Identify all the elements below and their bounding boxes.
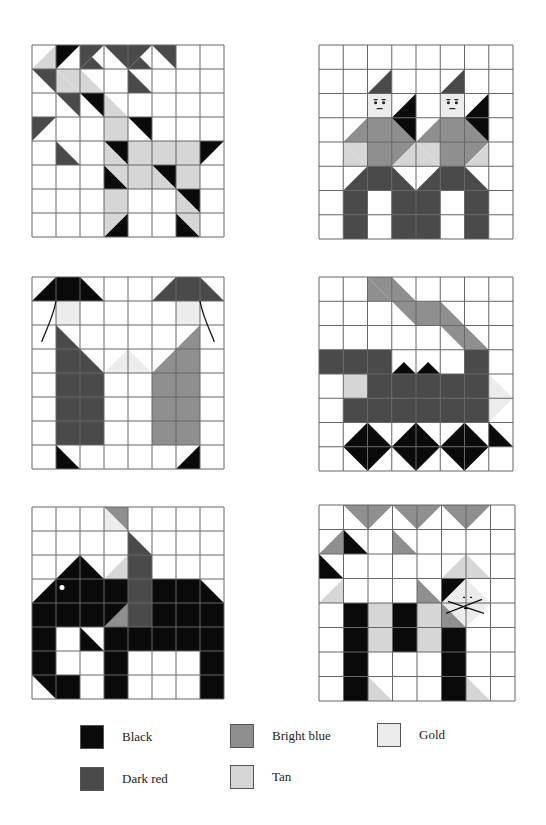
cell-dark-red <box>152 277 176 301</box>
cell-black <box>343 447 367 471</box>
cell-black <box>32 603 56 627</box>
color-swatch <box>377 723 401 747</box>
legend-item-bright-blue: Bright blue <box>230 724 331 748</box>
cell-gold <box>368 94 392 118</box>
cell-black <box>56 445 80 469</box>
cell-dark-red <box>56 373 80 397</box>
cell-dark-red <box>128 579 152 603</box>
cell-dark-red <box>416 398 440 422</box>
cell-gold <box>440 94 464 118</box>
cell-black <box>440 423 464 447</box>
cell-black <box>465 447 489 471</box>
legend-label: Tan <box>272 769 291 785</box>
legend-item-black: Black <box>80 725 152 749</box>
cell-bright-blue <box>466 505 491 530</box>
cell-black <box>56 45 80 69</box>
cell-black <box>368 423 392 447</box>
cell-black <box>344 530 369 555</box>
color-swatch <box>80 725 104 749</box>
pattern-panel-cat-and-bars <box>318 504 516 702</box>
cell-dark-red <box>416 374 440 398</box>
cell-black <box>200 675 224 699</box>
cell-tan <box>343 374 367 398</box>
cell-tan <box>152 141 176 165</box>
cell-black <box>80 579 104 603</box>
cell-bright-blue <box>416 301 440 325</box>
cell-dark-red <box>104 45 128 69</box>
cell-gold <box>56 301 80 325</box>
legend-item-dark-red: Dark red <box>80 767 168 791</box>
cell-black <box>176 627 200 651</box>
cell-bright-blue <box>440 301 464 325</box>
cell-black <box>442 652 467 677</box>
cell-tan <box>442 554 467 579</box>
cell-black <box>416 423 440 447</box>
cell-dark-red <box>416 166 440 190</box>
cell-dark-red <box>56 141 80 165</box>
cell-tan <box>104 555 128 579</box>
cell-dark-red <box>32 69 56 93</box>
cell-dark-red <box>465 166 489 190</box>
cell-dark-red <box>80 421 104 445</box>
cell-black <box>200 579 224 603</box>
cell-dark-red <box>128 555 152 579</box>
cell-black <box>344 677 369 702</box>
cell-dark-red <box>80 397 104 421</box>
cell-black <box>128 627 152 651</box>
cell-dark-red <box>368 69 392 93</box>
cell-tan <box>417 603 442 628</box>
pattern-grid <box>318 276 514 472</box>
hair-strand-line <box>42 301 56 342</box>
cell-black <box>104 627 128 651</box>
cell-bright-blue <box>417 579 442 604</box>
cell-dark-red <box>128 69 152 93</box>
cell-tan <box>104 93 128 117</box>
cell-bright-blue <box>417 505 442 530</box>
legend-label: Dark red <box>122 771 168 787</box>
cell-black <box>392 94 416 118</box>
color-swatch <box>80 767 104 791</box>
cell-dark-red <box>440 69 464 93</box>
cell-dark-red <box>368 166 392 190</box>
cell-dark-red <box>343 350 367 374</box>
cell-black <box>416 447 440 471</box>
cell-bright-blue <box>176 349 200 373</box>
legend-item-tan: Tan <box>230 765 291 789</box>
cell-black <box>80 627 104 651</box>
cell-bright-blue <box>152 397 176 421</box>
cell-black <box>344 652 369 677</box>
cell-tan <box>176 141 200 165</box>
cell-bright-blue <box>176 325 200 349</box>
cell-black <box>104 651 128 675</box>
cell-bright-blue <box>392 277 416 301</box>
cell-tan <box>176 165 200 189</box>
cell-black <box>465 423 489 447</box>
cell-bright-blue <box>152 349 176 373</box>
cell-black <box>392 362 416 374</box>
cell-black <box>392 447 416 471</box>
pattern-panel-abstract-diagonal <box>31 44 225 238</box>
cell-dark-red <box>465 191 489 215</box>
cell-bright-blue <box>368 505 393 530</box>
cell-dark-red <box>56 421 80 445</box>
cell-dark-red <box>465 374 489 398</box>
cell-dark-red <box>368 374 392 398</box>
grid-lines <box>32 507 224 699</box>
cell-black <box>489 423 513 447</box>
cell-dark-red <box>392 215 416 239</box>
cell-dark-red <box>152 45 176 69</box>
cell-tan <box>104 117 128 141</box>
pattern-grid <box>31 44 225 238</box>
cell-dark-red <box>343 166 367 190</box>
cell-dark-red <box>319 350 343 374</box>
cell-dark-red <box>368 398 392 422</box>
cell-dark-red <box>440 398 464 422</box>
cell-dark-red <box>128 603 152 627</box>
cell-black <box>392 423 416 447</box>
legend-label: Bright blue <box>272 728 331 744</box>
cell-dark-red <box>128 531 152 555</box>
color-swatch <box>230 765 254 789</box>
cell-bright-blue <box>176 397 200 421</box>
cell-dark-red <box>416 215 440 239</box>
cell-black <box>32 277 56 301</box>
